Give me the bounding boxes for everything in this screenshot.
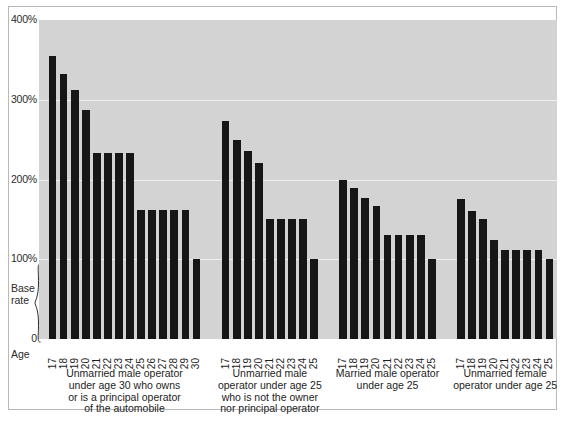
y-tick-label-300: 300%	[11, 94, 37, 105]
bar	[373, 206, 381, 339]
bar	[104, 153, 112, 339]
bar	[299, 219, 307, 339]
gridline-300	[39, 100, 557, 101]
group-label: Unmarried male operator under age 30 who…	[50, 368, 200, 415]
y-tick-label-200: 200%	[11, 174, 37, 185]
bar	[244, 151, 252, 339]
bar	[546, 259, 554, 339]
age-axis-label: Age	[11, 348, 30, 360]
bar	[339, 180, 347, 339]
bar	[182, 210, 190, 339]
y-tick-label-400: 400%	[11, 14, 37, 25]
bar	[115, 153, 123, 339]
bar	[490, 240, 498, 339]
bar	[523, 250, 531, 339]
bar	[49, 56, 57, 339]
bar	[457, 199, 465, 339]
bar	[535, 250, 543, 339]
plot-area	[39, 20, 557, 339]
bar	[71, 90, 79, 339]
bar	[417, 235, 425, 339]
bar	[82, 110, 90, 339]
bar	[512, 250, 520, 339]
bar	[233, 140, 241, 339]
bar	[222, 121, 230, 339]
bar	[148, 210, 156, 339]
bar	[350, 188, 358, 339]
bar	[126, 153, 134, 339]
bar	[159, 210, 167, 339]
bar	[137, 210, 145, 339]
bar	[288, 219, 296, 339]
bar	[479, 219, 487, 339]
bar	[266, 219, 274, 339]
bar	[310, 259, 318, 339]
bar	[468, 211, 476, 339]
base-rate-label: Base rate	[11, 282, 35, 306]
group-labels: Unmarried male operator under age 30 who…	[39, 368, 557, 413]
bar	[60, 74, 68, 339]
x-axis-tick-labels: 1718192021222324252627282930171819202122…	[39, 339, 557, 369]
bar	[501, 250, 509, 339]
bar	[255, 163, 263, 339]
bar	[193, 259, 201, 339]
bar	[277, 219, 285, 339]
bar	[406, 235, 414, 339]
bar	[170, 210, 178, 339]
bar	[93, 153, 101, 339]
bar	[395, 235, 403, 339]
bar	[384, 235, 392, 339]
group-label: Unmarried female operator under age 25	[430, 368, 567, 392]
bar	[361, 198, 369, 339]
chart-figure: 400%300%200%100%0 Base rate Age 17181920…	[8, 6, 557, 410]
bar	[428, 259, 436, 339]
